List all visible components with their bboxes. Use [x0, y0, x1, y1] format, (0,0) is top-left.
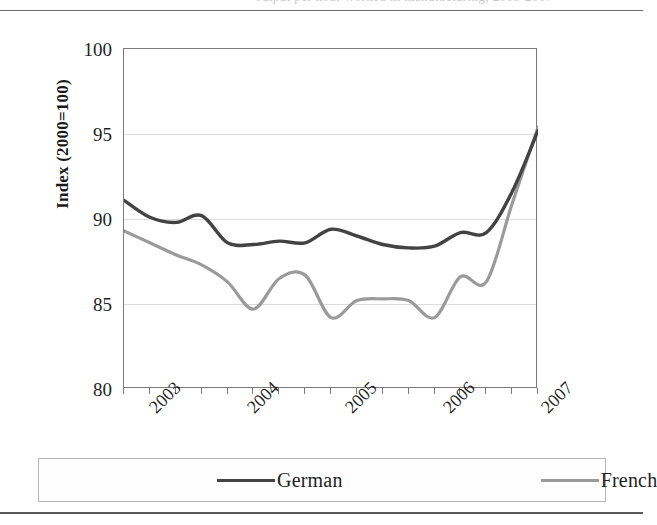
legend-line-swatch-german	[217, 479, 275, 482]
page-rule-bottom	[0, 512, 643, 514]
x-tick-mark	[304, 388, 305, 394]
chart-legend: German French	[38, 458, 606, 502]
legend-label-german: German	[277, 469, 343, 492]
figure-chart: Index (2000=100) 100 95 90 85 80 2003 20…	[0, 14, 643, 509]
x-tick-mark	[123, 388, 124, 394]
x-tick-mark	[485, 388, 486, 394]
legend-line-swatch-french	[541, 479, 599, 482]
x-tick-mark	[408, 388, 409, 394]
y-tick-label: 95	[66, 125, 112, 144]
x-tick-mark	[382, 388, 383, 394]
y-tick-label: 100	[66, 40, 112, 59]
page-rule-top	[0, 10, 643, 11]
cut-off-caption-ghost: output per hour worked in manufacturing,…	[255, 0, 640, 9]
x-tick-mark	[201, 388, 202, 394]
legend-item-german: German	[217, 469, 343, 492]
x-tick-mark	[227, 388, 228, 394]
y-tick-label: 80	[66, 380, 112, 399]
plot-area	[123, 48, 537, 388]
legend-label-french: French	[601, 469, 657, 492]
line-french	[124, 127, 538, 318]
y-tick-label: 85	[66, 295, 112, 314]
x-axis-tick-labels: 2003 2004 2005 2006 2007	[123, 395, 543, 455]
x-tick-mark	[434, 388, 435, 394]
line-german	[124, 131, 538, 249]
series-lines	[124, 49, 538, 389]
x-tick-mark	[511, 388, 512, 394]
x-tick-label: 2007	[537, 378, 577, 418]
y-tick-label: 90	[66, 210, 112, 229]
x-tick-mark	[149, 388, 150, 394]
legend-item-french: French	[541, 469, 657, 492]
x-tick-mark	[330, 388, 331, 394]
x-tick-mark	[537, 388, 538, 394]
y-axis-tick-labels: 100 95 90 85 80	[60, 14, 112, 394]
